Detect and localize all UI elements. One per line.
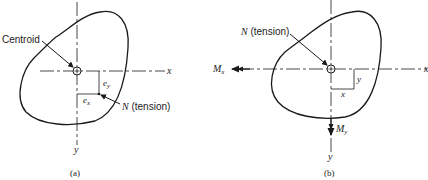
ey-label: ey [103, 79, 110, 90]
caption-a: (a) [70, 169, 80, 178]
y-dimension-label: y [357, 75, 361, 84]
x-axis-label-b: x [424, 64, 428, 74]
force-label-b: N (tension) [241, 27, 289, 37]
figure-b [232, 0, 427, 152]
ex-label: ex [83, 96, 90, 107]
moment-x-label: Mx [213, 64, 224, 76]
force-label-a: N (tension) [122, 102, 170, 112]
force-leader-arrow-b [290, 34, 327, 65]
caption-b: (b) [324, 169, 335, 178]
x-dimension-label: x [341, 90, 345, 99]
y-axis-label-b: y [328, 152, 332, 162]
y-axis-label-a: y [74, 145, 78, 155]
centroid-label: Centroid [2, 35, 40, 45]
centroid-leader-arrow [42, 41, 73, 67]
x-axis-label-a: x [167, 66, 171, 76]
moment-y-label: My [336, 124, 347, 136]
load-point-a [98, 93, 101, 96]
figure-a [20, 2, 165, 145]
